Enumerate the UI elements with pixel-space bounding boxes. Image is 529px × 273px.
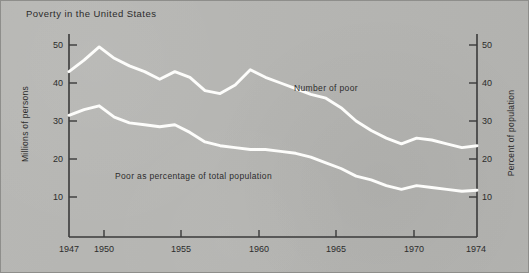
- y-axis-right-tick-30: 30: [482, 116, 504, 126]
- series-line-number-of-poor: [69, 47, 477, 148]
- x-axis-tick-1947: 1947: [52, 244, 86, 254]
- y-axis-left-tick-30: 30: [41, 116, 63, 126]
- y-axis-right-tick-40: 40: [482, 78, 504, 88]
- x-axis-tick-1974: 1974: [459, 244, 493, 254]
- y-axis-right-tick-50: 50: [482, 40, 504, 50]
- y-axis-left-tick-10: 10: [41, 192, 63, 202]
- y-axis-right-tick-10: 10: [482, 192, 504, 202]
- y-axis-left-tick-50: 50: [41, 40, 63, 50]
- x-axis-tick-1950: 1950: [87, 244, 121, 254]
- y-axis-left-tick-20: 20: [41, 154, 63, 164]
- plot-area: [1, 1, 529, 273]
- x-axis-tick-1970: 1970: [397, 244, 431, 254]
- x-axis-tick-1955: 1955: [164, 244, 198, 254]
- poverty-chart-figure: Poverty in the United States Millions of…: [0, 0, 529, 273]
- x-axis-ticks: [104, 230, 414, 237]
- y-axis-right-ticks: [469, 45, 477, 197]
- y-axis-left-tick-40: 40: [41, 78, 63, 88]
- y-axis-right-tick-20: 20: [482, 154, 504, 164]
- x-axis-tick-1960: 1960: [242, 244, 276, 254]
- series-annotation-poverty-rate: Poor as percentage of total population: [115, 171, 272, 181]
- series-annotation-number-of-poor: Number of poor: [294, 83, 358, 93]
- x-axis-tick-1965: 1965: [319, 244, 353, 254]
